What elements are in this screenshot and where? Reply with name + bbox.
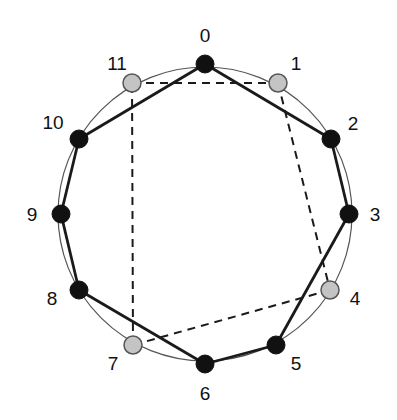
- node-6: [196, 355, 214, 373]
- solid-edge-5-6: [205, 345, 276, 364]
- node-label-3: 3: [370, 204, 381, 225]
- node-3: [340, 205, 358, 223]
- dashed-edge-1-4: [278, 83, 330, 290]
- solid-edge-6-8: [79, 290, 205, 364]
- node-2: [322, 130, 340, 148]
- node-4: [321, 281, 339, 299]
- node-label-2: 2: [348, 113, 359, 134]
- node-label-5: 5: [291, 353, 302, 374]
- solid-edge-3-5: [276, 214, 349, 345]
- node-1: [269, 74, 287, 92]
- solid-edge-8-9: [61, 214, 79, 290]
- node-10: [70, 130, 88, 148]
- node-label-8: 8: [47, 288, 58, 309]
- node-label-4: 4: [350, 288, 361, 309]
- node-label-7: 7: [108, 353, 119, 374]
- solid-edge-2-3: [331, 139, 349, 214]
- node-9: [52, 205, 70, 223]
- node-label-1: 1: [291, 53, 302, 74]
- node-7: [124, 336, 142, 354]
- node-11: [123, 74, 141, 92]
- node-label-10: 10: [42, 112, 63, 133]
- dashed-edge-7-11: [132, 83, 133, 345]
- node-label-11: 11: [107, 53, 127, 74]
- node-5: [267, 336, 285, 354]
- node-0: [196, 55, 214, 73]
- solid-polygon: [61, 64, 349, 364]
- solid-edge-0-2: [205, 64, 331, 139]
- node-8: [70, 281, 88, 299]
- solid-edge-10-0: [79, 64, 205, 139]
- node-label-6: 6: [200, 383, 211, 404]
- node-labels: 01234567891011: [27, 25, 381, 404]
- node-label-0: 0: [200, 25, 211, 46]
- circle-diagram: 01234567891011: [0, 0, 397, 420]
- node-label-9: 9: [27, 204, 38, 225]
- reference-circle: [58, 67, 352, 361]
- solid-edge-9-10: [61, 139, 79, 214]
